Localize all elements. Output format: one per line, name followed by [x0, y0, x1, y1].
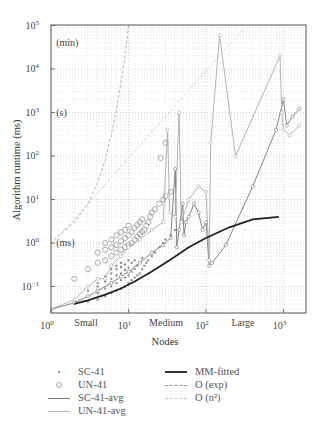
sc41-point: [115, 268, 117, 270]
sc41-point: [110, 272, 112, 274]
sc41-point: [141, 257, 143, 259]
sc41-point: [128, 274, 130, 276]
sc41-point: [128, 267, 130, 269]
y-tick-label: 103: [26, 106, 40, 118]
sc41-point: [128, 259, 130, 261]
y-tick-label: 102: [26, 149, 40, 161]
sc41-point: [110, 268, 112, 270]
y-tick-label: 101: [26, 193, 40, 205]
sc41-point: [143, 265, 145, 267]
sc41-point: [104, 281, 106, 283]
sc41-point: [134, 268, 136, 270]
sc41-point: [131, 271, 133, 273]
x-tick-label: 101: [118, 319, 132, 331]
grid-lines: [51, 25, 306, 313]
y-tick-label: 10−1: [22, 280, 40, 292]
size-region-label: Medium: [149, 317, 183, 328]
x-tick-label: 102: [195, 319, 209, 331]
x-axis-title: Nodes: [152, 336, 179, 347]
sc41-point: [174, 229, 176, 231]
x-tick-label: 103: [273, 319, 287, 331]
size-region-label: Large: [231, 317, 255, 328]
sc41-point: [110, 286, 112, 288]
unit-label: (s): [56, 107, 67, 119]
sc41-point: [120, 266, 122, 268]
sc41-point: [115, 282, 117, 284]
y-tick-label: 104: [26, 62, 40, 74]
size-region-label: Small: [74, 317, 98, 328]
sc41-point: [97, 282, 99, 284]
sc41-point: [115, 274, 117, 276]
sc41-point: [87, 290, 89, 292]
sc41-point: [147, 259, 149, 261]
sc41-point: [136, 274, 138, 276]
sc41-point: [110, 278, 112, 280]
unit-label: (min): [56, 37, 78, 49]
y-tick-label: 100: [26, 236, 40, 248]
unit-label: (ms): [56, 237, 74, 249]
sc41-point: [131, 262, 133, 264]
sc41-point: [104, 287, 106, 289]
sc41-point: [97, 299, 99, 301]
sc41-point: [154, 252, 156, 254]
sc41-point: [141, 268, 143, 270]
x-tick-label: 100: [40, 319, 54, 331]
sc41-point: [124, 269, 126, 271]
sc41-point: [124, 277, 126, 279]
sc41-point: [120, 279, 122, 281]
sc41-point: [120, 262, 122, 264]
sc41-point: [139, 272, 141, 274]
sc41-point: [164, 239, 166, 241]
o-exp--line: [54, 26, 128, 240]
sc41-point: [124, 264, 126, 266]
sc41-point: [145, 262, 147, 264]
y-axis-title: Algorithm runtime (ms): [11, 119, 23, 220]
sc41-point: [134, 259, 136, 261]
axis-ticks: 10010110210310−1100101102103104105: [22, 19, 287, 332]
sc41-point: [115, 265, 117, 267]
sc41-point: [131, 279, 133, 281]
y-tick-label: 105: [26, 19, 40, 31]
sc41-point: [120, 272, 122, 274]
sc41-point: [151, 255, 153, 257]
sc41-point: [97, 286, 99, 288]
un41-point: [132, 226, 137, 231]
sc41-point: [134, 277, 136, 279]
runtime-chart: 10010110210310−1100101102103104105 (min)…: [0, 0, 326, 440]
